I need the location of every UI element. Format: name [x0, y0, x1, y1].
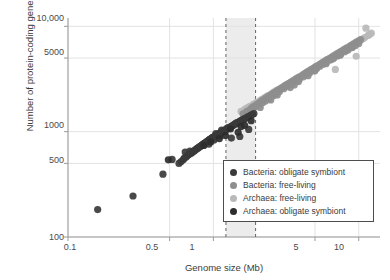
- data-point: [207, 138, 214, 145]
- scatter-plot-figure: Number of protein-coding genes 10,000 50…: [0, 0, 390, 280]
- data-point: [200, 142, 207, 149]
- data-point: [94, 206, 101, 213]
- data-point: [257, 104, 264, 111]
- data-point: [274, 91, 281, 98]
- data-point: [165, 156, 172, 163]
- data-point: [186, 147, 193, 154]
- legend-item-bacteria-free: Bacteria: free-living: [230, 179, 367, 192]
- data-point: [267, 96, 274, 103]
- data-point: [343, 47, 350, 54]
- legend-item-archaea-free: Archaea: free-living: [230, 192, 367, 205]
- legend-item-archaea-obligate: Archaea: obligate symbiont: [230, 205, 367, 218]
- legend-swatch-icon: [230, 195, 237, 202]
- legend-swatch-icon: [230, 169, 237, 176]
- data-point: [362, 25, 369, 32]
- legend-box: Bacteria: obligate symbiont Bacteria: fr…: [223, 160, 374, 222]
- data-point: [332, 66, 339, 73]
- legend-item-bacteria-obligate: Bacteria: obligate symbiont: [230, 166, 367, 179]
- data-point: [355, 40, 362, 47]
- data-point: [295, 78, 302, 85]
- data-point: [129, 192, 136, 199]
- data-point: [227, 125, 234, 132]
- data-point: [337, 52, 344, 59]
- data-point: [159, 171, 166, 178]
- data-point: [366, 31, 373, 38]
- legend-label: Bacteria: obligate symbiont: [243, 166, 345, 179]
- series-1: [239, 36, 364, 117]
- legend-label: Archaea: obligate symbiont: [243, 205, 346, 218]
- legend-swatch-icon: [230, 208, 237, 215]
- data-point: [235, 129, 242, 136]
- data-point: [353, 53, 360, 60]
- data-point: [222, 132, 229, 139]
- data-point: [329, 55, 336, 62]
- legend-swatch-icon: [230, 182, 237, 189]
- data-point: [304, 72, 311, 79]
- data-point: [311, 67, 318, 74]
- legend-label: Archaea: free-living: [243, 192, 316, 205]
- legend-label: Bacteria: free-living: [243, 179, 316, 192]
- plot-canvas: [0, 0, 390, 280]
- data-point: [241, 122, 248, 129]
- data-point: [248, 117, 255, 124]
- data-point: [250, 110, 257, 117]
- data-point: [322, 60, 329, 67]
